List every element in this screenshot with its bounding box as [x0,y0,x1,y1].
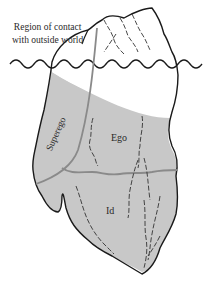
crack-lines-top [104,14,150,54]
contact-label-line1: Region of contact [12,21,83,34]
contact-region-label: Region of contact with outside world [12,21,83,47]
ego-label: Ego [111,132,127,144]
contact-label-line2: with outside world [12,34,83,47]
id-label: Id [106,205,114,217]
